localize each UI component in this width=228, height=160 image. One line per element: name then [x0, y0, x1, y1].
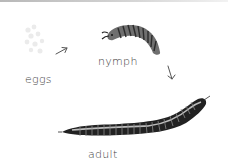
- eggs-icon: [25, 25, 45, 54]
- arrow-up-right-icon: [56, 48, 67, 55]
- nymph-icon: [102, 25, 160, 55]
- arrow-down-icon: [168, 66, 175, 79]
- eggs-label: eggs: [25, 73, 52, 86]
- adult-millipede-icon: [58, 96, 210, 136]
- adult-label: adult: [88, 148, 118, 160]
- nymph-label: nymph: [98, 55, 138, 68]
